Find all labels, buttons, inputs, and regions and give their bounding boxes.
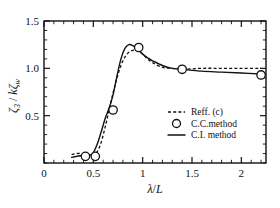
x-tick-label: 0.5 [86,167,100,179]
x-tick-label: 0 [41,167,47,179]
data-point-marker [178,65,186,73]
x-axis-title: λ/L [146,182,163,196]
y-axis-label: ζ3 / kζw [6,78,22,112]
y-tick-label: 1.0 [25,62,39,74]
x-tick-label: 1 [140,167,146,179]
legend-label: Reff. (c) [191,107,223,118]
x-axis-minor-ticks [54,21,261,163]
y-axis-minor-ticks [44,30,266,163]
data-markers-layer [81,43,265,160]
data-point-marker [135,43,143,51]
y-axis-major-ticks [44,21,266,116]
legend-label: C.I. method [191,130,236,140]
y-axis-title: ζ3 / kζw [6,78,22,112]
chart-canvas: 00.511.52 0.51.01.5 λ/L ζ3 / kζw Reff. (… [0,0,280,208]
x-tick-label: 1.5 [185,167,199,179]
data-point-marker [91,152,99,160]
data-point-marker [81,152,89,160]
legend-label: C.C.method [191,119,237,129]
chart-figure: 00.511.52 0.51.01.5 λ/L ζ3 / kζw Reff. (… [0,0,280,208]
y-tick-label: 0.5 [25,110,39,122]
x-axis-label: λ/L [146,182,163,196]
x-tick-label: 2 [239,167,245,179]
chart-legend: Reff. (c)C.C.methodC.I. method [168,107,237,140]
plot-frame [44,21,266,163]
x-axis-major-ticks [44,21,241,163]
data-point-marker [109,106,117,114]
y-axis-tick-labels: 0.51.01.5 [25,15,39,122]
legend-circle-icon [173,120,181,128]
y-tick-label: 1.5 [25,15,39,27]
data-point-marker [257,71,265,79]
x-axis-tick-labels: 00.511.52 [41,167,244,179]
